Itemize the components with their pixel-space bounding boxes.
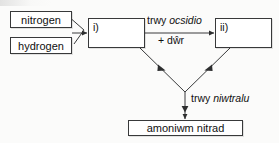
flow-diagram-canvas: nitrogen hydrogen i) ii) amoniwm nitrad … xyxy=(0,0,279,143)
node-product-label: amoniwm nitrad xyxy=(129,122,242,134)
node-nitrogen-label: nitrogen xyxy=(11,14,71,26)
edge-label-neutralise-term: niwtralu xyxy=(213,92,249,104)
arrowhead-vertical-drop xyxy=(182,106,189,113)
edge-label-neutralise: trwy niwtralu xyxy=(191,92,249,104)
arrowhead-right-diagonal xyxy=(204,65,212,72)
node-step-one[interactable]: i) xyxy=(88,18,145,48)
edge-label-plus-water: + dŵr xyxy=(158,34,184,46)
node-step-two[interactable]: ii) xyxy=(215,18,272,48)
node-hydrogen-label: hydrogen xyxy=(11,40,71,52)
node-step-two-label: ii) xyxy=(220,21,228,33)
merge-junction-line xyxy=(72,20,84,45)
edge-label-oxidise-term: ocsidio xyxy=(169,14,202,26)
edge-label-oxidise: trwy ocsidio xyxy=(147,14,202,26)
arrowhead-left-diagonal xyxy=(157,65,165,72)
node-nitrogen[interactable]: nitrogen xyxy=(10,11,72,28)
node-step-one-label: i) xyxy=(93,21,99,33)
edge-label-neutralise-prefix: trwy xyxy=(191,92,213,104)
node-hydrogen[interactable]: hydrogen xyxy=(10,37,72,54)
node-product[interactable]: amoniwm nitrad xyxy=(128,120,243,136)
edge-label-oxidise-prefix: trwy xyxy=(147,14,169,26)
